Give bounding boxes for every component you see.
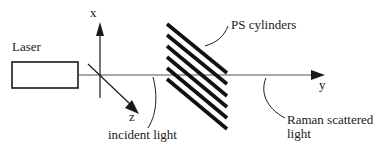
laser-label: Laser: [12, 39, 42, 54]
incident-light-label: incident light: [108, 127, 177, 142]
x-axis: [96, 22, 104, 98]
raman-setup-diagram: Laser y x z PS cylinders: [0, 0, 380, 153]
incident-light-callout: [148, 77, 156, 128]
ps-cylinders-callout: [205, 26, 228, 46]
raman-light-callout: [264, 78, 285, 118]
x-axis-label: x: [90, 5, 97, 20]
ps-cylinders-label: PS cylinders: [231, 17, 296, 32]
raman-label-line1: Raman scattered: [287, 112, 374, 127]
y-axis-label: y: [319, 77, 326, 92]
x-axis-arrowhead-icon: [96, 22, 104, 36]
diagram-canvas: Laser y x z PS cylinders: [0, 0, 380, 153]
raman-label-line2: light: [287, 126, 311, 141]
laser-source: [12, 62, 78, 88]
z-axis: [88, 64, 139, 114]
z-axis-label: z: [129, 109, 135, 124]
